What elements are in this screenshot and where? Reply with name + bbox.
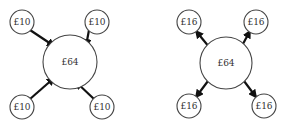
center-node-label: £64 [61, 57, 78, 67]
inflow-diagram: £64 £10 £10 £10 £10 [10, 10, 114, 119]
target-node-label: £16 [180, 101, 197, 111]
source-node-label: £10 [88, 17, 105, 27]
target-node-label: £16 [180, 17, 197, 27]
source-node-label: £10 [13, 17, 30, 27]
source-node-label: £10 [93, 102, 110, 112]
diagram-canvas: £64 £10 £10 £10 £10 £64 £16 £16 £16 £16 [0, 0, 288, 131]
target-node-label: £16 [255, 101, 272, 111]
center-node-label: £64 [217, 58, 234, 68]
outflow-diagram: £64 £16 £16 £16 £16 [177, 10, 276, 118]
source-node-label: £10 [13, 102, 30, 112]
target-node-label: £16 [247, 17, 264, 27]
